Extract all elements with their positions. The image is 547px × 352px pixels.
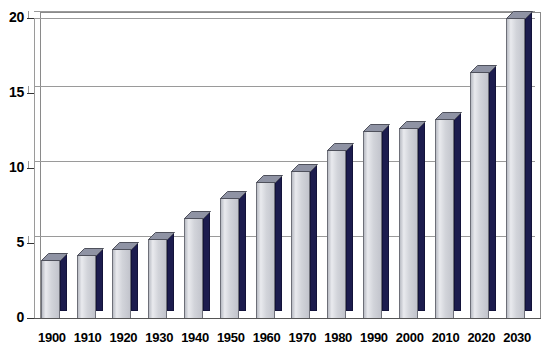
bar-2010 — [435, 112, 461, 319]
bar-1910 — [77, 248, 103, 318]
bar-top-face — [148, 232, 176, 241]
bar-1940 — [184, 211, 210, 319]
bar-front-face — [148, 239, 167, 319]
bar-1900 — [41, 253, 67, 319]
bar-front-face — [435, 119, 454, 319]
bar-side-face — [489, 65, 496, 311]
bar-front-face — [506, 18, 525, 318]
bar-front-face — [399, 128, 418, 319]
bar-top-face — [256, 175, 284, 184]
bar-front-face — [112, 249, 131, 318]
bar-side-face — [239, 191, 246, 311]
bar-top-face — [112, 242, 140, 251]
bar-top-face — [220, 191, 248, 200]
bar-front-face — [363, 131, 382, 319]
bar-side-face — [418, 121, 425, 312]
bar-side-face — [310, 164, 317, 311]
bars-group — [0, 0, 547, 352]
bar-side-face — [525, 11, 532, 311]
bar-front-face — [77, 255, 96, 318]
bar-top-face — [506, 11, 534, 20]
bar-side-face — [167, 232, 174, 312]
bar-chart: 05101520 1900191019201930194019501960197… — [0, 0, 547, 352]
bar-side-face — [275, 175, 282, 312]
bar-top-face — [399, 121, 427, 130]
bar-front-face — [220, 198, 239, 318]
bar-front-face — [184, 218, 203, 319]
bar-2000 — [399, 121, 425, 319]
bar-top-face — [77, 248, 105, 257]
bar-front-face — [327, 150, 346, 318]
bar-1980 — [327, 143, 353, 318]
bar-1970 — [291, 164, 317, 318]
bar-front-face — [291, 171, 310, 318]
bar-1920 — [112, 242, 138, 318]
axis-floor — [34, 318, 541, 324]
bar-side-face — [96, 248, 103, 311]
bar-side-face — [382, 124, 389, 312]
bar-side-face — [131, 242, 138, 311]
bar-1990 — [363, 124, 389, 319]
bar-top-face — [470, 65, 498, 74]
bar-top-face — [184, 211, 212, 220]
bar-1950 — [220, 191, 246, 318]
bar-top-face — [363, 124, 391, 133]
bar-top-face — [291, 164, 319, 173]
bar-front-face — [41, 260, 60, 319]
x-tick-label-2030: 2030 — [495, 330, 539, 345]
bar-front-face — [256, 182, 275, 319]
bar-1960 — [256, 175, 282, 319]
bar-top-face — [41, 253, 69, 262]
bar-top-face — [327, 143, 355, 152]
bar-side-face — [203, 211, 210, 312]
bar-top-face — [435, 112, 463, 121]
bar-1930 — [148, 232, 174, 319]
bar-side-face — [454, 112, 461, 312]
bar-side-face — [346, 143, 353, 311]
bar-front-face — [470, 72, 489, 318]
bar-2030 — [506, 11, 532, 318]
bar-2020 — [470, 65, 496, 318]
